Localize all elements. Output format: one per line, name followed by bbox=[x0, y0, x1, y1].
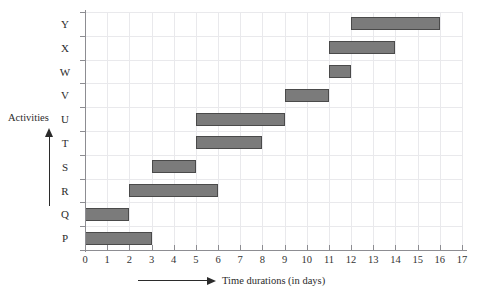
x-tick-label: 3 bbox=[141, 253, 163, 266]
x-tick bbox=[129, 245, 130, 251]
x-tick bbox=[440, 245, 441, 251]
y-tick bbox=[80, 12, 86, 13]
y-tick bbox=[80, 131, 86, 132]
x-tick bbox=[285, 245, 286, 251]
x-tick bbox=[262, 245, 263, 251]
x-tick-label: 17 bbox=[451, 253, 473, 266]
y-tick-label-w: W bbox=[56, 66, 74, 78]
gridline-horizontal bbox=[85, 155, 462, 156]
y-tick bbox=[80, 250, 86, 251]
x-tick-label: 5 bbox=[185, 253, 207, 266]
y-tick-label-t: T bbox=[56, 137, 74, 149]
y-axis-title: Activities bbox=[8, 112, 49, 123]
y-tick-label-v: V bbox=[56, 89, 74, 101]
gantt-bar-u bbox=[196, 113, 285, 126]
y-tick bbox=[80, 202, 86, 203]
gantt-bar-x bbox=[329, 41, 396, 54]
gantt-bar-q bbox=[85, 208, 129, 221]
x-tick-label: 11 bbox=[318, 253, 340, 266]
x-tick-label: 10 bbox=[296, 253, 318, 266]
gridline-horizontal bbox=[85, 107, 462, 108]
x-tick bbox=[196, 245, 197, 251]
x-tick-label: 15 bbox=[407, 253, 429, 266]
x-axis-line bbox=[80, 250, 467, 251]
y-tick-label-q: Q bbox=[56, 208, 74, 220]
x-tick bbox=[107, 245, 108, 251]
gantt-bar-v bbox=[285, 89, 329, 102]
x-tick bbox=[395, 245, 396, 251]
x-tick-label: 2 bbox=[118, 253, 140, 266]
x-tick bbox=[218, 245, 219, 251]
x-axis-title-group: Time durations (in days) bbox=[138, 275, 325, 286]
x-tick-label: 9 bbox=[274, 253, 296, 266]
gridline-horizontal bbox=[85, 12, 462, 13]
x-tick bbox=[418, 245, 419, 251]
y-tick-label-x: X bbox=[56, 42, 74, 54]
y-tick-label-y: Y bbox=[56, 18, 74, 30]
gantt-bar-p bbox=[85, 232, 152, 245]
plot-area bbox=[85, 12, 462, 250]
x-tick bbox=[174, 245, 175, 251]
x-tick-label: 7 bbox=[229, 253, 251, 266]
x-tick-label: 1 bbox=[96, 253, 118, 266]
y-axis-arrow-icon bbox=[45, 128, 54, 206]
x-tick-label: 16 bbox=[429, 253, 451, 266]
x-tick-label: 8 bbox=[251, 253, 273, 266]
gantt-bar-s bbox=[152, 160, 196, 173]
x-tick-label: 4 bbox=[163, 253, 185, 266]
gridline-horizontal bbox=[85, 226, 462, 227]
y-tick bbox=[80, 155, 86, 156]
x-tick-label: 0 bbox=[74, 253, 96, 266]
y-tick bbox=[80, 36, 86, 37]
y-tick bbox=[80, 179, 86, 180]
x-tick-label: 12 bbox=[340, 253, 362, 266]
x-tick bbox=[351, 245, 352, 251]
gridline-horizontal bbox=[85, 131, 462, 132]
x-axis-arrow-icon bbox=[138, 276, 216, 285]
y-tick-label-r: R bbox=[56, 185, 74, 197]
x-tick bbox=[240, 245, 241, 251]
x-tick bbox=[462, 245, 463, 251]
gantt-bar-w bbox=[329, 65, 351, 78]
gantt-chart: 01234567891011121314151617 PQRSTUVWXY Ac… bbox=[0, 0, 484, 302]
y-tick-label-u: U bbox=[56, 113, 74, 125]
x-tick-label: 14 bbox=[384, 253, 406, 266]
y-tick bbox=[80, 83, 86, 84]
x-tick bbox=[307, 245, 308, 251]
gridline-horizontal bbox=[85, 83, 462, 84]
gantt-bar-t bbox=[196, 136, 263, 149]
y-tick bbox=[80, 60, 86, 61]
y-tick bbox=[80, 226, 86, 227]
y-tick bbox=[80, 107, 86, 108]
x-tick bbox=[373, 245, 374, 251]
x-tick bbox=[152, 245, 153, 251]
gridline-horizontal bbox=[85, 36, 462, 37]
gridline-vertical bbox=[462, 12, 463, 250]
gridline-horizontal bbox=[85, 179, 462, 180]
x-tick bbox=[329, 245, 330, 251]
gantt-bar-y bbox=[351, 17, 440, 30]
x-tick-label: 6 bbox=[207, 253, 229, 266]
gridline-horizontal bbox=[85, 202, 462, 203]
x-axis-title: Time durations (in days) bbox=[222, 275, 325, 286]
y-tick-label-p: P bbox=[56, 232, 74, 244]
y-tick-label-s: S bbox=[56, 161, 74, 173]
x-tick-label: 13 bbox=[362, 253, 384, 266]
gridline-horizontal bbox=[85, 60, 462, 61]
gantt-bar-r bbox=[129, 184, 218, 197]
